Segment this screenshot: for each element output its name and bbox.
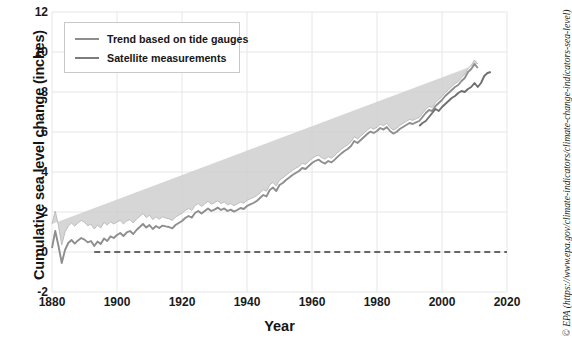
x-axis-title: Year xyxy=(52,318,507,334)
x-tick-2020: 2020 xyxy=(477,295,537,309)
y-axis-title: Cumulative sea level change (inches) xyxy=(31,12,47,298)
legend-item-tide-gauges: Trend based on tide gauges xyxy=(75,31,248,47)
x-tick-1920: 1920 xyxy=(152,295,212,309)
x-tick-1900: 1900 xyxy=(87,295,147,309)
x-tick-1980: 1980 xyxy=(347,295,407,309)
source-credit: © EPA (https://www.epa.gov/climate-indic… xyxy=(561,7,572,337)
legend-swatch-satellite xyxy=(75,57,99,60)
x-tick-1960: 1960 xyxy=(282,295,342,309)
legend-swatch-tide-gauges xyxy=(75,38,99,41)
x-tick-2000: 2000 xyxy=(412,295,472,309)
legend-label-tide-gauges: Trend based on tide gauges xyxy=(107,33,248,45)
legend-label-satellite: Satellite measurements xyxy=(107,52,226,64)
sea-level-chart-figure: 121086420-2 1880190019201940196019802000… xyxy=(0,0,572,348)
legend-item-satellite: Satellite measurements xyxy=(75,50,226,66)
x-tick-1940: 1940 xyxy=(217,295,277,309)
chart-legend: Trend based on tide gauges Satellite mea… xyxy=(64,22,240,73)
